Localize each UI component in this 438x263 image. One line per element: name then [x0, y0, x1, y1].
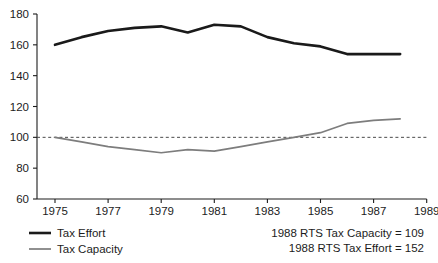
- y-axis-tick-label: 60: [16, 193, 29, 205]
- x-axis-tick-label: 1975: [42, 205, 68, 217]
- chart-background: [0, 0, 438, 263]
- annotation-text: 1988 RTS Tax Effort = 152: [289, 242, 424, 254]
- legend-label-tax-capacity: Tax Capacity: [57, 243, 123, 255]
- x-axis-tick-label: 1985: [308, 205, 334, 217]
- x-axis-tick-label: 1983: [255, 205, 281, 217]
- y-axis-tick-label: 80: [16, 162, 29, 174]
- y-axis-tick-label: 140: [10, 70, 29, 82]
- y-axis-tick-label: 180: [10, 8, 29, 20]
- y-axis-tick-label: 100: [10, 131, 29, 143]
- y-axis-tick-label: 160: [10, 39, 29, 51]
- x-axis-tick-label: 1977: [95, 205, 121, 217]
- annotation-text: 1988 RTS Tax Capacity = 109: [271, 227, 424, 239]
- line-chart: 6080100120140160180 19751977197919811983…: [0, 0, 438, 263]
- x-axis-tick-label: 1989: [414, 205, 438, 217]
- x-axis-tick-label: 1987: [361, 205, 387, 217]
- x-axis-tick-label: 1981: [202, 205, 228, 217]
- y-axis-tick-label: 120: [10, 101, 29, 113]
- legend-label-tax-effort: Tax Effort: [57, 227, 106, 239]
- x-axis-tick-label: 1979: [148, 205, 174, 217]
- chart-figure: 6080100120140160180 19751977197919811983…: [0, 0, 438, 263]
